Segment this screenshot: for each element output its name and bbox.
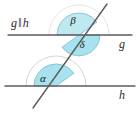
angle-beta-label: β (69, 14, 76, 26)
angle-delta-label: δ (79, 38, 85, 50)
angle-beta-sector (57, 13, 97, 35)
parallel-symbol-icon: ‖ (18, 16, 21, 30)
line-g-label: g (119, 37, 125, 51)
parallel-statement-g: g (11, 16, 17, 30)
parallel-statement: g‖h (11, 16, 29, 30)
angle-alpha-region (26, 56, 86, 86)
parallel-statement-h: h (23, 16, 29, 30)
geometry-canvas: g‖h g h β δ α (0, 0, 140, 113)
angle-alpha-label: α (40, 72, 46, 84)
angle-beta-region (57, 13, 97, 35)
geometry-figure: g‖h g h β δ α (0, 0, 140, 113)
line-h-label: h (119, 88, 125, 102)
